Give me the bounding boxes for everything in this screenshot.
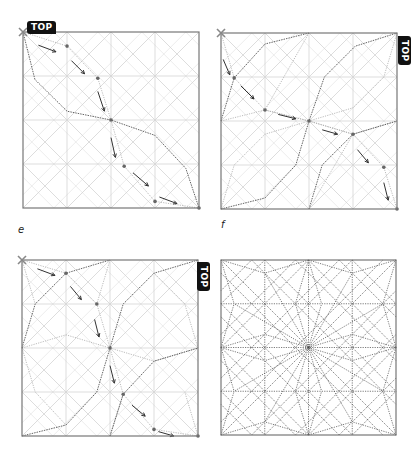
arrow-icon [241, 86, 254, 99]
reference-point-dot [307, 119, 311, 123]
reference-point-dot [153, 200, 157, 204]
crease-diagram [22, 260, 198, 436]
crease-diagram [221, 33, 397, 209]
crease-diagram [221, 260, 396, 435]
arrow-icon [38, 45, 56, 52]
reference-point-dot [152, 428, 156, 432]
reference-point-dot [108, 346, 112, 350]
reference-point-dot [121, 392, 125, 396]
full-crease-pattern [221, 260, 396, 435]
reference-point-dot [351, 132, 355, 136]
panel-e [22, 260, 198, 436]
arrow-icon [223, 59, 230, 74]
top-orientation-tag: TOP [398, 36, 411, 65]
arrow-icon [95, 319, 100, 337]
reference-point-dot [64, 271, 68, 275]
crease-diagram [23, 32, 199, 208]
reference-point-dot [96, 76, 100, 80]
top-orientation-tag: TOP [27, 21, 56, 34]
panel-e-top-right [221, 33, 397, 209]
reference-point-dot [95, 302, 99, 306]
panel-f [221, 260, 396, 435]
arrow-icon [37, 269, 55, 276]
reference-point-dot [65, 44, 69, 48]
reference-point-dot [109, 118, 113, 122]
figure-label-f: f [221, 219, 225, 230]
reference-point-dot [122, 164, 126, 168]
panel-d [23, 32, 199, 208]
top-orientation-tag: TOP [197, 262, 210, 291]
reference-point-dot [382, 165, 386, 169]
arrow-icon [384, 183, 389, 201]
arrow-icon [111, 138, 116, 158]
arrow-icon [71, 61, 84, 74]
reference-point-dot [263, 108, 267, 112]
reference-point-dot [232, 76, 236, 80]
figure-label-e: e [18, 224, 24, 235]
